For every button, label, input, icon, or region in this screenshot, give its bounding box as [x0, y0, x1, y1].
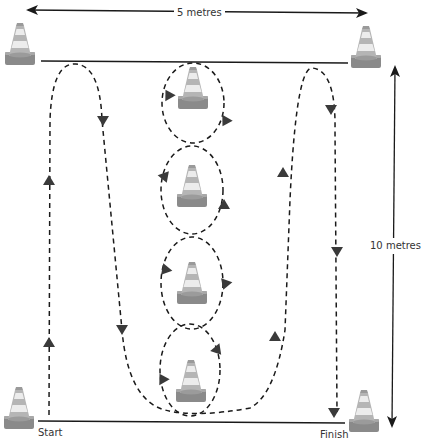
drill-diagram: [0, 0, 422, 443]
start-label: Start: [38, 427, 62, 439]
cone-centre-2-icon: [177, 165, 207, 207]
cone-centre-4-icon: [176, 360, 206, 402]
bottom-boundary-line: [38, 421, 345, 423]
cone-bottom-right-icon: [349, 390, 379, 432]
top-boundary-line: [41, 61, 348, 63]
cone-centre-1-icon: [178, 67, 208, 109]
width-label: 5 metres: [174, 7, 225, 19]
finish-label: Finish: [320, 429, 348, 441]
cone-centre-3-icon: [177, 262, 207, 304]
cone-top-right-icon: [351, 26, 381, 68]
cone-top-left-icon: [5, 23, 35, 65]
height-label: 10 metres: [370, 238, 421, 254]
cone-bottom-left-icon: [4, 387, 34, 429]
